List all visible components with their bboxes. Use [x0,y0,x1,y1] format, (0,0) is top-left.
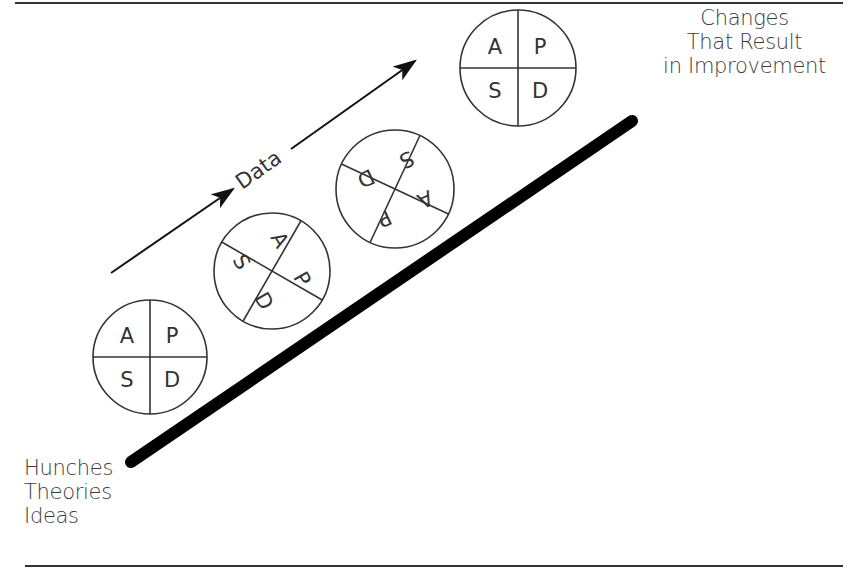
end-label-line-1: Changes [663,6,826,30]
end-label-line-3: in Improvement [663,54,826,78]
end-label: Changes That Result in Improvement [663,6,826,78]
quadrant-do: D [532,79,548,103]
pdsa-cycle-4: A P S D [460,10,576,126]
quadrant-plan: P [166,324,179,348]
start-label-line-1: Hunches [24,456,113,480]
start-label: Hunches Theories Ideas [24,456,113,528]
quadrant-act: A [120,324,135,348]
quadrant-study: S [120,368,133,392]
end-label-line-2: That Result [663,30,826,54]
start-label-line-3: Ideas [24,504,113,528]
quadrant-plan: P [534,35,547,59]
pdsa-cycle-1: A P S D [93,300,207,414]
data-label: Data [231,146,286,194]
pdsa-ramp-diagram: Data A P S D A P S D A P S [0,0,848,573]
quadrant-do: D [164,368,180,392]
quadrant-study: S [488,79,501,103]
quadrant-act: A [488,35,503,59]
start-label-line-2: Theories [24,480,113,504]
